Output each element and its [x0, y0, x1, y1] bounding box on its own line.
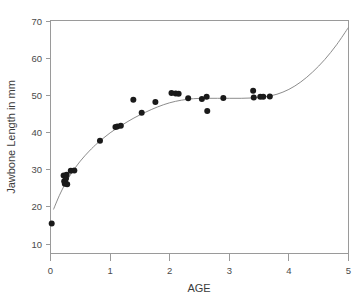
- data-point: [250, 88, 256, 94]
- data-point: [71, 167, 77, 173]
- y-tick-label: 60: [31, 53, 42, 64]
- data-point: [49, 221, 55, 227]
- y-tick-label: 30: [31, 164, 42, 175]
- data-point: [267, 93, 273, 99]
- data-point: [139, 110, 145, 116]
- y-tick-label: 50: [31, 90, 42, 101]
- data-point: [176, 91, 182, 97]
- plot-canvas: 10203040506070 012345 AGE Jawbone Length…: [0, 0, 359, 302]
- data-point: [220, 95, 226, 101]
- data-point: [97, 138, 103, 144]
- data-point: [130, 97, 136, 103]
- y-tick-label: 10: [31, 239, 42, 250]
- data-point: [260, 94, 266, 100]
- x-tick-label: 3: [227, 265, 232, 276]
- data-point: [251, 95, 257, 101]
- y-tick-label: 70: [31, 16, 42, 27]
- data-point: [64, 181, 70, 187]
- x-tick-label: 1: [107, 265, 112, 276]
- scatter-plot-figure: 10203040506070 012345 AGE Jawbone Length…: [0, 0, 359, 302]
- data-point: [118, 123, 124, 129]
- data-point: [204, 94, 210, 100]
- data-point: [204, 108, 210, 114]
- y-tick-label: 20: [31, 201, 42, 212]
- y-tick-label: 40: [31, 127, 42, 138]
- figure-background: [0, 0, 359, 302]
- caption-edge-strip: [0, 296, 359, 302]
- data-point: [185, 95, 191, 101]
- x-tick-label: 4: [286, 265, 291, 276]
- x-tick-label: 2: [167, 265, 172, 276]
- x-tick-label: 0: [48, 265, 53, 276]
- data-point: [152, 99, 158, 105]
- x-tick-label: 5: [346, 265, 351, 276]
- x-axis-title: AGE: [187, 282, 210, 294]
- y-axis-title: Jawbone Length in mm: [5, 80, 17, 194]
